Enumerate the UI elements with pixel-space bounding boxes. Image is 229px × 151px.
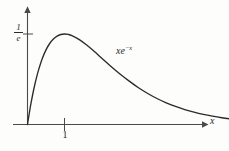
fraction-denominator: e	[11, 33, 26, 43]
x-axis-label: x	[210, 116, 214, 126]
curve-equation-exponent: −x	[125, 44, 132, 51]
curve-equation-label: xe−x	[116, 46, 132, 56]
curve-equation-base: xe	[116, 45, 125, 56]
x-tick-label-1: 1	[60, 130, 70, 140]
fraction-numerator: 1	[11, 23, 26, 32]
x-axis-arrowhead	[202, 121, 209, 127]
figure-container: 1 e 1 x xe−x	[0, 0, 229, 151]
y-axis-value-label: 1 e	[11, 23, 26, 43]
y-axis-arrowhead	[24, 6, 30, 13]
plot-canvas	[0, 0, 229, 151]
